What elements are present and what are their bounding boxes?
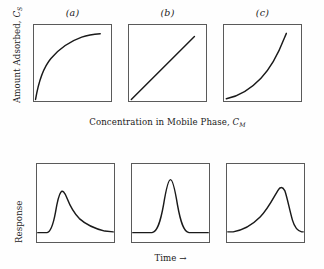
isotherm-panel-a <box>33 24 112 102</box>
chromatogram-curve-c <box>228 188 303 232</box>
chromatogram-panel-a <box>36 163 115 243</box>
chromatogram-panel-c <box>226 163 305 243</box>
isotherm-curve-a-svg <box>34 25 111 101</box>
x-axis-title-concentration-mobile-phase: Concentration in Mobile Phase, CM <box>33 117 302 128</box>
isotherm-panel-c <box>223 24 302 102</box>
chromatogram-curve-a <box>38 191 113 232</box>
figure-root: (a) (b) (c) Amount Adsorbed, CS Concentr… <box>0 0 324 269</box>
panel-caption-top-a: (a) <box>33 7 112 18</box>
chromatogram-curve-c-svg <box>227 164 304 242</box>
isotherm-curve-b <box>131 36 194 99</box>
isotherm-curve-b-svg <box>129 25 206 101</box>
isotherm-curve-c <box>226 33 286 98</box>
isotherm-curve-c-svg <box>224 25 301 101</box>
chromatogram-curve-a-svg <box>37 164 114 242</box>
y-axis-title-symbol: C <box>12 11 22 18</box>
y-axis-title-subscript: S <box>16 7 23 11</box>
x-axis-title-time: Time → <box>36 253 305 263</box>
x-axis-title-subscript: M <box>239 121 245 128</box>
x-axis-title-text: Concentration in Mobile Phase, <box>89 117 232 127</box>
panel-caption-top-c: (c) <box>223 7 302 18</box>
y-axis-title-text: Amount Adsorbed, <box>12 18 22 103</box>
isotherm-curve-a <box>36 34 101 100</box>
chromatogram-panel-b <box>131 163 210 243</box>
y-axis-title-response: Response <box>14 201 24 243</box>
chromatogram-curve-b <box>133 180 208 233</box>
chromatogram-curve-b-svg <box>132 164 209 242</box>
panel-caption-top-b: (b) <box>128 7 207 18</box>
isotherm-panel-b <box>128 24 207 102</box>
y-axis-title-amount-adsorbed: Amount Adsorbed, CS <box>12 7 23 103</box>
